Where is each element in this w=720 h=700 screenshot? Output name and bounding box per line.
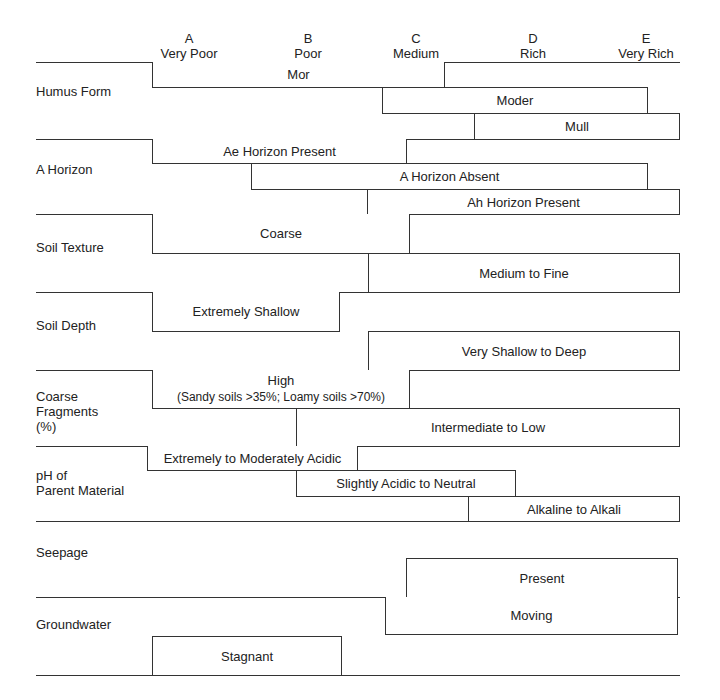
bar-ah-horizon-present: Ah Horizon Present [367,189,680,215]
column-letter-b: B [294,31,321,46]
column-header-a: A Very Poor [160,31,217,61]
section-label-ph-parent-material: pH of Parent Material [36,468,124,498]
bar-sublabel: (Sandy soils >35%; Loamy soils >70%) [177,389,385,406]
bar-very-shallow-to-deep: Very Shallow to Deep [368,331,680,371]
bar-label: Moving [511,608,553,623]
bar-alkaline-to-alkali: Alkaline to Alkali [468,496,680,522]
bar-mor: Mor [152,62,445,88]
bar-label: Alkaline to Alkali [527,502,621,517]
bar-label: Mor [287,67,309,82]
column-header-e: E Very Rich [618,31,674,61]
bar-a-horizon-absent: A Horizon Absent [251,163,648,190]
bar-label: Ah Horizon Present [467,195,580,210]
bar-medium-to-fine: Medium to Fine [368,253,680,293]
column-header-c: C Medium [393,31,439,61]
bar-present: Present [406,558,678,598]
column-label-d: Rich [520,46,546,61]
bar-label: Present [520,571,565,586]
bar-label: Intermediate to Low [431,420,545,435]
section-label-humus-form: Humus Form [36,84,111,99]
column-header-b: B Poor [294,31,321,61]
section-label-line: Fragments [36,404,98,419]
bar-label: Mull [565,119,589,134]
bar-label: High [268,372,295,389]
section-label-coarse-fragments: Coarse Fragments (%) [36,389,98,434]
bar-mull: Mull [474,113,680,140]
column-header-d: D Rich [520,31,546,61]
bar-label: Extremely to Moderately Acidic [164,451,342,466]
bar-moving: Moving [385,597,678,635]
bar-label: Medium to Fine [479,266,569,281]
bar-label: Ae Horizon Present [223,144,336,159]
bottom-rule [36,675,680,676]
bar-coarse: Coarse [152,214,410,254]
bar-stagnant: Stagnant [152,636,342,676]
section-label-groundwater: Groundwater [36,617,111,632]
bar-intermediate-to-low: Intermediate to Low [296,408,680,447]
column-label-e: Very Rich [618,46,674,61]
bar-label: Coarse [260,226,302,241]
section-label-line: Parent Material [36,483,124,498]
column-label-b: Poor [294,46,321,61]
bar-slightly-acidic-to-neutral: Slightly Acidic to Neutral [296,470,516,497]
section-label-seepage: Seepage [36,545,88,560]
section-label-soil-depth: Soil Depth [36,318,96,333]
column-letter-c: C [393,31,439,46]
section-label-line: Coarse [36,389,98,404]
bar-label: Extremely Shallow [193,304,300,319]
bar-label: A Horizon Absent [400,169,500,184]
section-label-line: (%) [36,419,98,434]
bar-extremely-to-moderately-acidic: Extremely to Moderately Acidic [147,446,358,471]
bar-moder: Moder [382,87,648,114]
bar-ae-horizon-present: Ae Horizon Present [152,139,407,164]
column-letter-d: D [520,31,546,46]
column-label-a: Very Poor [160,46,217,61]
bar-label: Moder [497,93,534,108]
column-letter-a: A [160,31,217,46]
bar-label: Stagnant [221,649,273,664]
section-label-soil-texture: Soil Texture [36,240,104,255]
bar-high: High (Sandy soils >35%; Loamy soils >70%… [152,370,410,409]
column-label-c: Medium [393,46,439,61]
column-letter-e: E [618,31,674,46]
section-label-a-horizon: A Horizon [36,162,92,177]
bar-label: Slightly Acidic to Neutral [336,476,475,491]
bar-label: Very Shallow to Deep [462,344,586,359]
section-label-line: pH of [36,468,124,483]
bar-extremely-shallow: Extremely Shallow [152,292,340,332]
